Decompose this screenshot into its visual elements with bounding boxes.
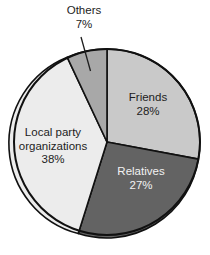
pie-slice-friends [107, 49, 200, 159]
pie-chart-figure: Others 7% Friends 28% Relatives 27% Loca… [0, 0, 210, 255]
pie-chart-svg [0, 0, 210, 255]
